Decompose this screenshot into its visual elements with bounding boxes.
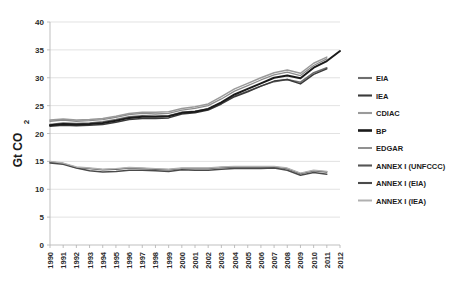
x-tick-label: 1994: [99, 251, 108, 269]
x-tick-label: 1995: [112, 252, 121, 269]
legend-label: BP: [376, 127, 386, 136]
x-axis-tick-labels: 1990199119921993199419951996199719981999…: [46, 251, 345, 269]
legend-label: EDGAR: [376, 144, 404, 153]
y-tick-label: 10: [35, 185, 44, 194]
legend-label: ANNEX I (EIA): [376, 179, 427, 188]
y-tick-label: 35: [35, 46, 44, 55]
y-tick-label: 30: [35, 74, 44, 83]
x-tick-label: 1990: [46, 252, 55, 269]
x-tick-label: 1996: [125, 252, 134, 269]
legend-label: EIA: [376, 74, 389, 83]
y-tick-label: 25: [35, 102, 44, 111]
x-tick-label: 1993: [86, 252, 95, 269]
y-tick-label: 20: [35, 130, 44, 139]
x-tick-label: 1999: [165, 252, 174, 269]
x-tick-label: 1992: [72, 252, 81, 269]
x-tick-label: 2002: [204, 252, 213, 269]
chart-canvas: 0510152025303540 19901991199219931994199…: [0, 0, 471, 291]
legend-label: ANNEX I (IEA): [376, 197, 427, 206]
y-axis-title-text: Gt CO: [11, 133, 25, 168]
legend-label: ANNEX I (UNFCCC): [376, 162, 446, 171]
x-tick-label: 2003: [217, 252, 226, 269]
x-tick-label: 2007: [270, 252, 279, 269]
x-tick-label: 2011: [323, 252, 332, 268]
x-tick-label: 2004: [231, 251, 240, 269]
x-tick-label: 2010: [310, 252, 319, 269]
y-tick-label: 15: [35, 157, 44, 166]
x-tick-label: 1998: [151, 252, 160, 269]
x-tick-label: 1997: [138, 252, 147, 269]
legend-label: CDIAC: [376, 109, 400, 118]
x-tick-label: 2000: [178, 252, 187, 269]
x-tick-label: 1991: [59, 252, 68, 269]
x-tick-label: 2001: [191, 252, 200, 269]
y-tick-label: 0: [40, 241, 45, 250]
x-tick-label: 2009: [296, 252, 305, 269]
x-tick-label: 2012: [336, 252, 345, 269]
x-tick-label: 2008: [283, 252, 292, 269]
co2-emissions-line-chart: 0510152025303540 19901991199219931994199…: [0, 0, 471, 291]
x-tick-label: 2005: [244, 252, 253, 269]
y-tick-label: 5: [40, 213, 45, 222]
legend-label: IEA: [376, 92, 389, 101]
y-axis-title-subscript: 2: [22, 119, 31, 124]
y-tick-label: 40: [35, 18, 44, 27]
x-tick-label: 2006: [257, 252, 266, 269]
